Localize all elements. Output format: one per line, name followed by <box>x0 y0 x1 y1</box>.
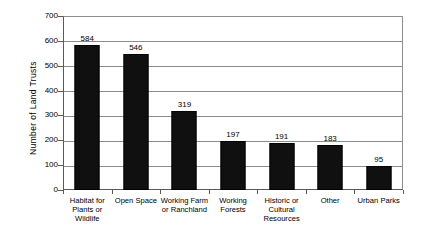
bar-value-label: 183 <box>323 135 336 143</box>
x-category-label-line: Cultural <box>253 205 310 214</box>
bar[interactable] <box>269 143 294 190</box>
bar[interactable] <box>123 54 148 190</box>
x-category-label-line: Plants or <box>59 205 116 214</box>
bar-slot: 95 <box>354 16 403 190</box>
bar-value-label: 584 <box>81 35 94 43</box>
x-category-label-line: Urban Parks <box>350 196 407 205</box>
bar-slot: 546 <box>112 16 161 190</box>
bar-slot: 197 <box>209 16 258 190</box>
x-category-label-line: Resources <box>253 214 310 223</box>
x-tick-mark <box>160 190 161 194</box>
bar-value-label: 95 <box>374 156 383 164</box>
bar[interactable] <box>318 145 343 190</box>
x-tick-mark <box>257 190 258 194</box>
bar-value-label: 546 <box>129 44 142 52</box>
x-tick-mark <box>112 190 113 194</box>
bar-slot: 183 <box>306 16 355 190</box>
x-tick-mark <box>403 190 404 194</box>
y-tick-label: 0 <box>30 186 58 194</box>
bar-slot: 319 <box>160 16 209 190</box>
bar[interactable] <box>75 45 100 190</box>
x-tick-mark <box>209 190 210 194</box>
bar[interactable] <box>366 166 391 190</box>
bar-chart-figure: Number of Land Trusts 700600500400300200… <box>0 0 424 239</box>
x-tick-mark <box>354 190 355 194</box>
x-category-label: Urban Parks <box>350 196 407 205</box>
bar-slot: 191 <box>257 16 306 190</box>
x-tick-mark <box>306 190 307 194</box>
y-tick-label: 400 <box>30 87 58 95</box>
y-tick-label: 700 <box>30 12 58 20</box>
bars-layer: 58454631919719118395 <box>63 16 403 190</box>
x-category-label-line: Wildlife <box>59 214 116 223</box>
y-tick-label: 600 <box>30 37 58 45</box>
y-tick-label: 500 <box>30 62 58 70</box>
bar-value-label: 191 <box>275 133 288 141</box>
y-tick-label: 100 <box>30 161 58 169</box>
bar[interactable] <box>172 111 197 190</box>
x-tick-mark <box>63 190 64 194</box>
bar-value-label: 197 <box>226 131 239 139</box>
y-tick-label: 300 <box>30 111 58 119</box>
x-axis-layer: Habitat forPlants orWildlifeOpen SpaceWo… <box>63 190 403 239</box>
bar-value-label: 319 <box>178 101 191 109</box>
bar-slot: 584 <box>63 16 112 190</box>
y-tick-label: 200 <box>30 136 58 144</box>
bar[interactable] <box>220 141 245 190</box>
